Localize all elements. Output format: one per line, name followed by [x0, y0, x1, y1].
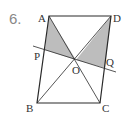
label-b: B	[26, 102, 33, 114]
label-d: D	[113, 12, 121, 24]
label-a: A	[38, 12, 46, 24]
label-c: C	[102, 102, 109, 114]
label-o: O	[72, 64, 80, 76]
label-p: P	[34, 50, 40, 62]
problem-number: 6.	[9, 10, 22, 27]
geometry-diagram: 6. A D B C O P Q	[0, 0, 128, 115]
label-q: Q	[106, 56, 114, 68]
